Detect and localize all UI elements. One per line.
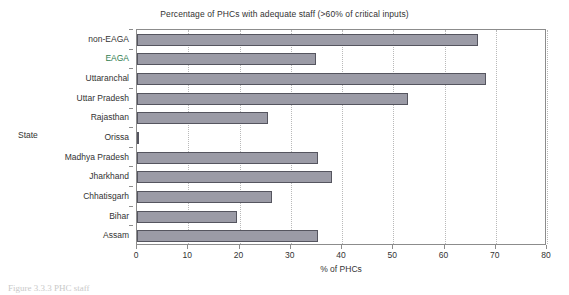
- chart-title: Percentage of PHCs with adequate staff (…: [0, 9, 569, 19]
- bar-row: [137, 230, 545, 242]
- category-axis: non-EAGAEAGAUttaranchalUttar PradeshRaja…: [0, 29, 133, 245]
- x-axis-tick: [546, 245, 547, 249]
- category-tick: [129, 29, 133, 30]
- category-label: Bihar: [109, 211, 129, 221]
- x-axis-tick-label: 60: [439, 250, 448, 260]
- category-label: Assam: [103, 230, 129, 240]
- bar: [137, 112, 268, 124]
- bar-row: [137, 93, 545, 105]
- x-axis-tick-label: 0: [134, 250, 139, 260]
- bar: [137, 211, 237, 223]
- category-tick: [129, 108, 133, 109]
- category-tick: [129, 206, 133, 207]
- category-tick: [129, 147, 133, 148]
- category-tick: [129, 88, 133, 89]
- bar: [137, 93, 408, 105]
- category-tick: [129, 68, 133, 69]
- bar: [137, 34, 478, 46]
- category-label: Chhatisgarh: [83, 191, 129, 201]
- bar: [137, 73, 486, 85]
- bar-row: [137, 171, 545, 183]
- x-axis-tick: [495, 245, 496, 249]
- bar-row: [137, 73, 545, 85]
- x-axis-tick-label: 70: [490, 250, 499, 260]
- bar-row: [137, 152, 545, 164]
- category-tick: [129, 49, 133, 50]
- bar: [137, 152, 318, 164]
- category-tick: [129, 166, 133, 167]
- category-label: non-EAGA: [88, 34, 129, 44]
- x-axis-tick-label: 50: [388, 250, 397, 260]
- category-tick: [129, 186, 133, 187]
- x-axis-tick: [136, 245, 137, 249]
- x-axis-tick: [444, 245, 445, 249]
- category-label: Orissa: [104, 132, 129, 142]
- bar-row: [137, 34, 545, 46]
- category-tick: [129, 225, 133, 226]
- bar: [137, 53, 316, 65]
- bar: [137, 191, 272, 203]
- category-label: Rajasthan: [91, 112, 129, 122]
- x-axis-tick: [187, 245, 188, 249]
- figure-caption: Figure 3.3.3 PHC staff: [8, 283, 90, 293]
- bar: [137, 171, 332, 183]
- x-axis-tick-label: 10: [183, 250, 192, 260]
- bar-row: [137, 112, 545, 124]
- x-axis-label: % of PHCs: [136, 264, 546, 274]
- category-tick: [129, 127, 133, 128]
- x-axis-tick: [239, 245, 240, 249]
- bar-row: [137, 132, 545, 144]
- bar-row: [137, 191, 545, 203]
- gridline: [547, 30, 549, 244]
- bar-row: [137, 211, 545, 223]
- category-label: Uttar Pradesh: [77, 93, 129, 103]
- x-axis-tick: [392, 245, 393, 249]
- bar: [137, 132, 139, 144]
- x-axis-tick-label: 20: [234, 250, 243, 260]
- chart-figure: Percentage of PHCs with adequate staff (…: [0, 0, 569, 295]
- bar-series: [137, 30, 545, 244]
- x-axis-tick: [341, 245, 342, 249]
- category-label: Madhya Pradesh: [65, 152, 129, 162]
- bar: [137, 230, 318, 242]
- bar-row: [137, 53, 545, 65]
- x-axis-tick: [290, 245, 291, 249]
- x-axis-tick-label: 40: [336, 250, 345, 260]
- x-axis-tick-label: 30: [285, 250, 294, 260]
- category-label: EAGA: [105, 53, 129, 63]
- plot-area: [136, 29, 546, 245]
- category-label: Jharkhand: [89, 171, 129, 181]
- category-label: Uttaranchal: [86, 73, 129, 83]
- x-axis-tick-label: 80: [541, 250, 550, 260]
